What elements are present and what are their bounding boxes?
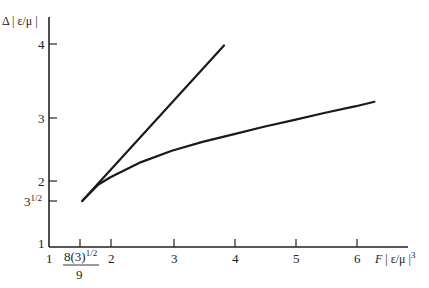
svg-text:8(3)1/2: 8(3)1/2 xyxy=(64,248,97,264)
x-tick-label-1: 1 xyxy=(46,251,53,266)
x-tick-label-6: 6 xyxy=(354,251,361,266)
y-tick-label-sqrt3: 31/2 xyxy=(24,193,42,209)
x-axis-title: F | ε/μ |3 xyxy=(374,250,416,266)
x-ticks xyxy=(80,239,357,247)
y-tick-label-2: 2 xyxy=(38,174,45,189)
straight-line-series xyxy=(82,46,224,202)
y-ticks xyxy=(49,44,57,201)
x-tick-label-8sqrt3-over-9: 8(3)1/2 9 xyxy=(63,248,99,282)
x-tick-label-2: 2 xyxy=(108,251,115,266)
x-tick-label-4: 4 xyxy=(232,251,239,266)
svg-text:9: 9 xyxy=(76,267,83,282)
x-tick-label-3: 3 xyxy=(171,251,178,266)
x-tick-label-5: 5 xyxy=(293,251,300,266)
y-tick-label-4: 4 xyxy=(38,37,45,52)
y-axis-title: Δ | ε/μ | xyxy=(2,14,38,28)
y-tick-label-1: 1 xyxy=(38,236,45,251)
y-tick-label-3: 3 xyxy=(38,111,45,126)
chart: Δ | ε/μ | 4 3 2 31/2 1 1 8(3)1/2 9 2 3 4… xyxy=(0,0,429,288)
